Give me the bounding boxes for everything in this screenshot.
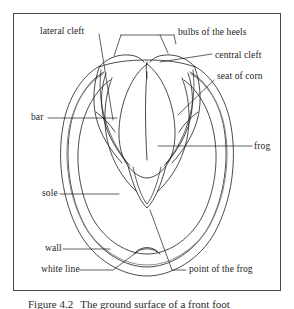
left-heel-bulb: [99, 55, 144, 67]
leader-seat-of-corn: [178, 80, 214, 115]
toe-white-line-detail: [136, 248, 158, 253]
frog-body-outline: [119, 64, 175, 178]
label-sole: sole: [42, 189, 58, 199]
frog-stalk-inner: [133, 167, 161, 204]
label-wall: wall: [45, 244, 62, 254]
leader-bulbs-of-the-heels: [114, 35, 176, 56]
hoof-ground-surface-diagram: [0, 0, 294, 309]
hoof-outer-wall-outline: [61, 66, 234, 276]
label-point-of-the-frog: point of the frog: [189, 265, 253, 275]
leader-bulbs-bracket-right: [160, 35, 168, 53]
left-bar-inner: [102, 73, 128, 164]
label-frog: frog: [254, 142, 270, 152]
label-central-cleft: central cleft: [215, 51, 261, 61]
label-white-line: white line: [41, 265, 80, 275]
label-bar: bar: [31, 113, 43, 123]
label-bulbs-of-the-heels: bulbs of the heels: [178, 28, 247, 38]
figure-container: lateral cleft bulbs of the heels central…: [0, 0, 294, 309]
right-bar-inner: [166, 73, 192, 164]
right-collateral-groove: [157, 78, 189, 192]
leader-lateral-cleft: [99, 34, 113, 120]
right-heel-bulb: [150, 55, 195, 67]
leader-lines: [48, 34, 252, 270]
label-lateral-cleft: lateral cleft: [40, 27, 84, 37]
frog-median-sulcus: [146, 72, 148, 160]
leader-white-line: [80, 252, 137, 270]
figure-caption-text: The ground surface of a front foot: [80, 298, 230, 309]
sole-outline: [78, 80, 216, 254]
figure-caption-number: Figure 4.2: [28, 298, 73, 309]
left-collateral-groove: [105, 78, 137, 192]
label-seat-of-corn: seat of corn: [217, 72, 263, 82]
figure-caption: Figure 4.2The ground surface of a front …: [28, 298, 278, 309]
